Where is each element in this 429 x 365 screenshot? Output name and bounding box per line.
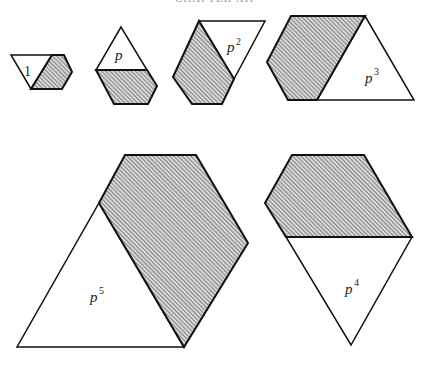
exponent-p4: 4 [354,277,359,288]
shape-1: 1 [11,55,72,89]
exponent-p5: 5 [99,285,104,296]
shape-p: p [96,27,157,104]
label-p: p [114,47,123,63]
self-similar-tiling-figure: 1 p p 2 p 3 p 5 p 4 [0,0,429,365]
label-p4: p [344,281,353,297]
label-p3: p [364,70,373,86]
hexagon-p [96,70,157,104]
shape-p2: p 2 [173,21,265,104]
label-p5: p [89,289,98,305]
shape-p4: p 4 [265,155,412,345]
label-p2: p [226,39,235,55]
exponent-p3: 3 [374,66,379,77]
shape-p5: p 5 [17,155,248,347]
shape-p3: p 3 [267,16,414,100]
label-1: 1 [24,64,31,79]
hexagon-p4 [265,155,412,237]
exponent-p2: 2 [236,36,241,47]
